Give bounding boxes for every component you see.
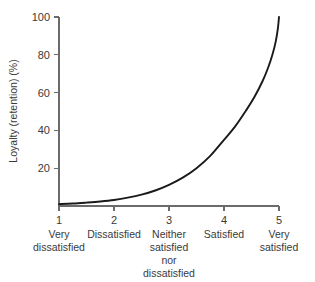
- x-axis-group: 12345 VerydissatisfiedDissatisfiedNeithe…: [33, 206, 298, 279]
- x-tick-numbers: 12345: [56, 214, 282, 226]
- x-tick-number: 2: [111, 214, 117, 226]
- x-tick-number: 3: [166, 214, 172, 226]
- x-tick-number: 5: [276, 214, 282, 226]
- satisfaction-loyalty-chart: 20406080100 12345 VerydissatisfiedDissat…: [0, 0, 315, 282]
- x-category-labels: VerydissatisfiedDissatisfiedNeithersatis…: [33, 228, 298, 279]
- x-category-line: Very: [48, 228, 70, 240]
- y-tick-label: 80: [38, 49, 50, 61]
- x-category-line: satisfied: [150, 241, 189, 253]
- y-tick-label: 40: [38, 124, 50, 136]
- y-tick-label: 100: [32, 11, 50, 23]
- y-tick-label: 20: [38, 162, 50, 174]
- y-axis-title-group: Loyalty (retention) (%): [7, 59, 19, 162]
- x-category-line: dissatisfied: [33, 241, 85, 253]
- x-category-label: Dissatisfied: [87, 228, 141, 240]
- chart-canvas: 20406080100 12345 VerydissatisfiedDissat…: [0, 0, 315, 282]
- series-group: [59, 17, 279, 204]
- y-tick-label: 60: [38, 87, 50, 99]
- x-tick-number: 1: [56, 214, 62, 226]
- x-category-line: dissatisfied: [143, 267, 195, 279]
- x-category-line: Neither: [152, 228, 186, 240]
- y-axis-title: Loyalty (retention) (%): [7, 59, 19, 162]
- y-axis-group: 20406080100: [32, 11, 59, 206]
- y-tick-labels: 20406080100: [32, 11, 50, 174]
- x-category-line: Satisfied: [204, 228, 244, 240]
- x-category-label: Neithersatisfiednordissatisfied: [143, 228, 195, 279]
- x-category-line: satisfied: [260, 241, 299, 253]
- loyalty-curve: [59, 17, 279, 204]
- x-category-label: Verydissatisfied: [33, 228, 85, 253]
- x-category-line: Very: [268, 228, 290, 240]
- x-category-label: Satisfied: [204, 228, 244, 240]
- x-tick-number: 4: [221, 214, 227, 226]
- x-category-label: Verysatisfied: [260, 228, 299, 253]
- x-category-line: nor: [161, 254, 177, 266]
- x-category-line: Dissatisfied: [87, 228, 141, 240]
